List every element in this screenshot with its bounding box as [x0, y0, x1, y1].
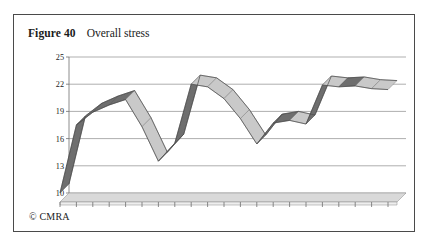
svg-text:13: 13: [56, 162, 64, 171]
chart-plot-area: 25221916131006/9709/9712/9703/9806/9809/…: [14, 37, 416, 207]
svg-text:16: 16: [56, 135, 64, 144]
svg-text:22: 22: [56, 80, 64, 89]
svg-text:25: 25: [56, 53, 64, 62]
line-chart: 25221916131006/9709/9712/9703/9806/9809/…: [14, 37, 416, 207]
svg-text:19: 19: [56, 107, 64, 116]
copyright-label: © CMRA: [29, 211, 70, 222]
figure-card: Figure 40 Overall stress 25221916131006/…: [13, 14, 415, 232]
